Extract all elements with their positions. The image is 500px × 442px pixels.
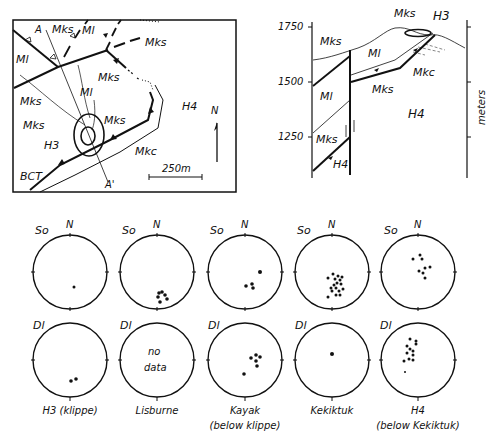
- stereonet-kekiktuk-d1: [293, 323, 371, 401]
- north-label: N: [211, 105, 219, 116]
- label-mks: Mks: [394, 7, 416, 20]
- north-label: N: [153, 219, 161, 230]
- cross-section: 1750 1500 1250 meters Mks H3 Mks Ml Mkc …: [278, 7, 487, 178]
- figure: A Mks Ml Mks Ml Mks Mks Ml Mks Mks H3 Mk…: [0, 0, 500, 442]
- label-mks: Mks: [98, 71, 120, 84]
- label-mks: Mks: [372, 83, 394, 96]
- column-sublabel-kayak: (below klippe): [210, 420, 281, 431]
- row-label-d1: Dl: [295, 319, 307, 332]
- stereonet-kekiktuk-so: [293, 233, 371, 311]
- stereonet-h4-d1: [379, 323, 457, 401]
- row-label-so: So: [297, 224, 311, 237]
- geologic-map: A Mks Ml Mks Ml Mks Mks Ml Mks Mks H3 Mk…: [13, 20, 236, 192]
- label-h3: H3: [433, 9, 450, 23]
- scale-label: 250m: [162, 163, 191, 174]
- row-label-so: So: [35, 224, 49, 237]
- stereonet-h3-so: [31, 233, 109, 311]
- row-label-d1: Dl: [120, 319, 132, 332]
- column-label-h3: H3 (klippe): [42, 405, 97, 416]
- scale-bar: [149, 174, 202, 180]
- label-ml: Ml: [16, 53, 29, 66]
- label-mkc: Mkc: [135, 145, 157, 158]
- elevation-1500: 1500: [278, 76, 303, 87]
- label-h4: H4: [182, 100, 197, 113]
- label-h3: H3: [44, 139, 59, 152]
- label-mks: Mks: [145, 36, 167, 49]
- label-mks-klippe: Mks: [104, 114, 126, 127]
- label-ml: Ml: [80, 86, 93, 99]
- column-label-lisburne: Lisburne: [136, 405, 179, 416]
- label-ml: Ml: [320, 90, 333, 103]
- stereonet-kayak-d1: [206, 323, 284, 401]
- row-label-so: So: [210, 224, 224, 237]
- label-mkc: Mkc: [413, 66, 435, 79]
- north-label: N: [241, 219, 249, 230]
- label-mks: Mks: [52, 23, 74, 36]
- column-label-kayak: Kayak: [230, 405, 261, 416]
- label-h4: H4: [333, 158, 348, 171]
- label-mks: Mks: [316, 133, 338, 146]
- label-bct: BCT: [20, 170, 43, 183]
- no-data-text: data: [144, 362, 167, 373]
- column-label-kekiktuk: Kekiktuk: [311, 405, 355, 416]
- north-label: N: [328, 219, 336, 230]
- klippe-inner: [81, 127, 95, 145]
- label-mks: Mks: [20, 95, 42, 108]
- map-frame: [13, 20, 236, 192]
- north-label: N: [66, 219, 74, 230]
- stereonet-labels: So So So So So N N N N N Dl Dl Dl Dl Dl …: [33, 219, 460, 431]
- row-label-d1: Dl: [33, 319, 45, 332]
- column-label-h4: H4: [411, 405, 425, 416]
- no-data-text: no: [148, 346, 160, 357]
- north-label: N: [414, 219, 422, 230]
- row-label-so: So: [122, 224, 136, 237]
- stereonet-kayak-so: [206, 233, 284, 311]
- label-mks: Mks: [320, 35, 342, 48]
- label-h4: H4: [408, 107, 425, 121]
- label-A-prime: A': [104, 179, 115, 190]
- label-A: A: [34, 24, 42, 35]
- row-label-d1: Dl: [380, 319, 392, 332]
- elevation-1250: 1250: [278, 131, 303, 142]
- label-mks: Mks: [23, 119, 45, 132]
- label-ml: Ml: [82, 24, 95, 37]
- stereonet-lisburne-so: [118, 233, 196, 311]
- axis-label-meters: meters: [476, 90, 487, 125]
- fault-dashed: [114, 38, 140, 47]
- elevation-1750: 1750: [278, 21, 303, 32]
- column-sublabel-h4: (below Kekiktuk): [376, 420, 459, 431]
- row-label-d1: Dl: [208, 319, 220, 332]
- label-ml: Ml: [368, 47, 381, 60]
- row-label-so: So: [384, 224, 398, 237]
- stereonet-h3-d1: [31, 323, 109, 401]
